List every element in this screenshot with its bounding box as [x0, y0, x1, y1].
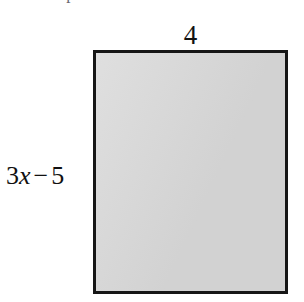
figure-canvas: Find the perimeter and the area of the r…	[0, 0, 304, 302]
height-constant: 5	[51, 161, 64, 190]
height-variable: x	[19, 161, 31, 190]
rectangle-shape	[93, 50, 288, 294]
height-coefficient: 3	[6, 161, 19, 190]
width-label: 4	[93, 20, 288, 50]
height-label: 3x−5	[6, 161, 90, 191]
clipped-prompt-text: Find the perimeter and the area of the r…	[4, 0, 304, 5]
minus-operator: −	[31, 161, 52, 190]
